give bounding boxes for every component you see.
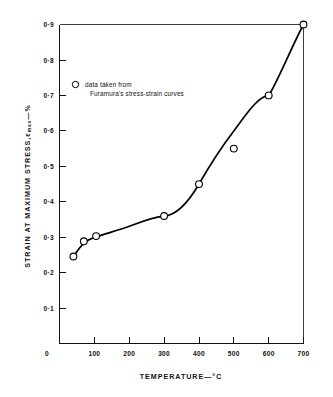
data-point-400: [196, 181, 203, 188]
y-tick-label-0-6: 0·6: [44, 127, 54, 134]
y-axis-title-main: STRAIN AT MAXIMUM STRESS,ε: [24, 132, 32, 267]
legend-marker-icon: [72, 81, 78, 87]
y-tick-label-0-5: 0·5: [44, 163, 54, 170]
y-tick-label-0-2: 0·2: [44, 269, 54, 276]
y-tick-marks: [60, 60, 66, 308]
y-tick-label-0-9: 0·9: [44, 21, 54, 28]
x-tick-label-600: 600: [263, 350, 275, 357]
data-point-600: [265, 92, 272, 99]
x-tick-labels: 0 100 200 300 400 500 600 700: [45, 350, 309, 357]
x-tick-label-400: 400: [193, 350, 205, 357]
x-tick-label-300: 300: [158, 350, 170, 357]
x-tick-marks: [94, 337, 303, 344]
chart-figure: 0·1 0·2 0·3 0·4 0·5 0·6 0·7 0·8 0·9 0 10…: [0, 0, 333, 397]
x-tick-label-500: 500: [228, 350, 240, 357]
data-line-series-1: [73, 25, 303, 257]
x-tick-label-200: 200: [123, 350, 135, 357]
x-tick-label-100: 100: [88, 350, 100, 357]
chart-legend: data taken from Furamura's stress-strain…: [72, 81, 184, 97]
chart-plot-area: 0·1 0·2 0·3 0·4 0·5 0·6 0·7 0·8 0·9 0 10…: [0, 0, 333, 397]
legend-label-line-1: data taken from: [85, 81, 132, 88]
x-axis-title: TEMPERATURE—°C: [140, 373, 223, 381]
y-tick-label-0-3: 0·3: [44, 234, 54, 241]
data-markers: [70, 21, 307, 260]
chart-axes: [60, 25, 304, 344]
legend-label-line-2: Furamura's stress-strain curves: [90, 90, 184, 97]
data-point-500: [230, 145, 237, 152]
x-tick-label-700: 700: [298, 350, 310, 357]
y-tick-label-0-7: 0·7: [44, 92, 54, 99]
y-axis-title-subscript: max: [27, 120, 32, 133]
y-tick-label-0-1: 0·1: [44, 305, 54, 312]
y-tick-label-0-4: 0·4: [44, 198, 54, 205]
data-point-40: [70, 253, 77, 260]
data-point-700: [300, 21, 307, 28]
data-point-105: [93, 233, 100, 240]
data-point-300: [161, 213, 168, 220]
data-point-70: [80, 238, 87, 245]
y-axis-title: STRAIN AT MAXIMUM STRESS,εmax—%: [24, 104, 32, 267]
y-tick-labels: 0·1 0·2 0·3 0·4 0·5 0·6 0·7 0·8 0·9: [44, 21, 54, 312]
y-tick-label-0-8: 0·8: [44, 57, 54, 64]
y-axis-title-units: —%: [24, 104, 32, 119]
x-tick-label-0: 0: [45, 350, 49, 357]
